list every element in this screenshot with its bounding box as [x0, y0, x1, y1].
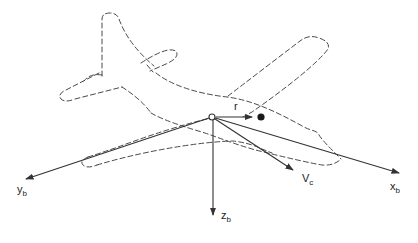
tail-cone-path [84, 75, 102, 81]
position-vector-label: r [234, 100, 238, 112]
left-stabilizer-path [60, 73, 122, 101]
figure-canvas: yb xb zb Vc r [0, 0, 418, 243]
left-wing-trailing-edge-path [97, 141, 272, 165]
x-axis-line [212, 117, 399, 173]
rear-fuselage-bottom-path [122, 87, 151, 113]
velocity-label: Vc [302, 172, 313, 187]
x-axis-label: xb [390, 180, 401, 195]
right-stabilizer-path [141, 50, 177, 71]
point-mass-dot [257, 113, 264, 120]
body-axes-diagram-svg: yb xb zb Vc r [0, 0, 418, 243]
origin-marker [209, 114, 215, 120]
z-axis-label: zb [221, 209, 232, 224]
y-axis-label: yb [17, 183, 28, 198]
velocity-vector-line [212, 117, 293, 170]
left-wing-tip-path [82, 157, 97, 167]
vertical-tail-fin-path [102, 13, 154, 76]
aircraft-outline [60, 13, 341, 167]
right-wing-path [228, 37, 329, 117]
y-axis-line [26, 117, 212, 179]
